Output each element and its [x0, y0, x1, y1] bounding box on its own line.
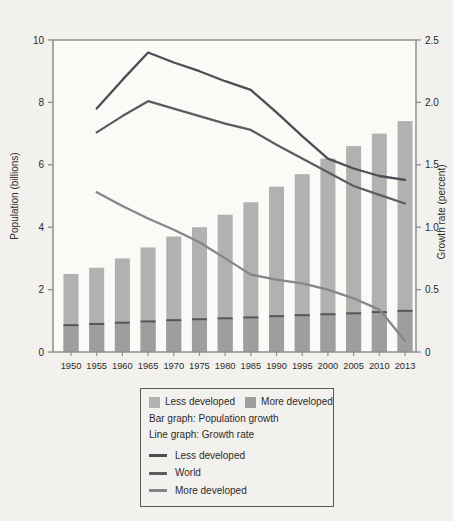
bar-more-developed-1965: [141, 321, 156, 352]
legend-box: Less developed More developed Bar graph:…: [140, 388, 334, 507]
x-tick-label: 1995: [292, 361, 313, 371]
x-tick-label: 2005: [343, 361, 364, 371]
left-tick-label: 0: [38, 347, 44, 358]
bar-more-developed-1990: [269, 316, 284, 352]
legend-label-less-developed-line: Less developed: [175, 448, 245, 465]
bar-more-developed-2005: [346, 313, 361, 352]
legend-line-entry-world: World: [149, 465, 327, 482]
plot-area: [53, 40, 416, 352]
legend-bar-caption: Bar graph: Population growth: [149, 411, 327, 428]
bar-more-developed-1950: [64, 325, 79, 352]
more-developed-bar-swatch: [245, 397, 256, 408]
x-tick-label: 2013: [395, 361, 416, 371]
bar-more-developed-1955: [89, 324, 104, 352]
x-tick-label: 2010: [369, 361, 390, 371]
bar-more-developed-2013: [398, 311, 413, 352]
x-tick-label: 1980: [215, 361, 236, 371]
world-line-swatch: [149, 472, 167, 475]
x-tick-label: 1975: [189, 361, 210, 371]
more-developed-line-swatch: [149, 489, 167, 492]
left-tick-label: 8: [38, 97, 44, 108]
bar-more-developed-1970: [166, 320, 181, 352]
bar-more-developed-2010: [372, 312, 387, 352]
left-tick-label: 4: [38, 222, 44, 233]
x-tick-label: 2000: [318, 361, 339, 371]
x-tick-label: 1990: [266, 361, 287, 371]
legend-spacer: [149, 444, 327, 447]
bar-more-developed-1995: [295, 315, 310, 352]
right-tick-label: 0: [425, 347, 431, 358]
legend-line-entry-more-developed: More developed: [149, 483, 327, 500]
left-tick-label: 10: [33, 35, 45, 46]
legend-label-more-developed-line: More developed: [175, 483, 247, 500]
less-developed-bar-swatch: [149, 397, 160, 408]
less-developed-line-swatch: [149, 454, 167, 457]
x-tick-label: 1950: [61, 361, 82, 371]
x-tick-label: 1985: [241, 361, 262, 371]
right-tick-label: 2.0: [425, 97, 439, 108]
x-tick-label: 1955: [86, 361, 107, 371]
figure-page: 024681000.51.01.52.02.519501955196019651…: [0, 0, 453, 521]
legend-label-less-developed-bar: Less developed: [165, 394, 235, 411]
bar-more-developed-1960: [115, 323, 130, 352]
right-tick-label: 2.5: [425, 35, 439, 46]
right-axis-title: Growth rate (percent): [436, 164, 447, 259]
left-axis-title: Population (billions): [9, 152, 20, 239]
legend-label-world-line: World: [175, 465, 201, 482]
left-tick-label: 2: [38, 284, 44, 295]
bar-more-developed-1980: [218, 318, 233, 352]
left-axis-ticks: 0246810: [33, 35, 53, 358]
legend-bar-swatch-row: Less developed More developed: [149, 394, 327, 411]
bar-more-developed-1975: [192, 319, 207, 352]
legend-line-caption: Line graph: Growth rate: [149, 427, 327, 444]
legend-label-more-developed-bar: More developed: [261, 394, 333, 411]
right-tick-label: 0.5: [425, 284, 439, 295]
left-tick-label: 6: [38, 159, 44, 170]
bar-more-developed-2000: [320, 314, 335, 352]
legend-line-entry-less-developed: Less developed: [149, 448, 327, 465]
x-tick-label: 1960: [112, 361, 133, 371]
x-tick-label: 1970: [163, 361, 184, 371]
x-axis-ticks: 1950195519601965197019751980198519901995…: [61, 352, 416, 371]
bar-more-developed-1985: [243, 317, 258, 352]
x-tick-label: 1965: [138, 361, 159, 371]
population-growth-rate-chart: 024681000.51.01.52.02.519501955196019651…: [0, 0, 453, 385]
